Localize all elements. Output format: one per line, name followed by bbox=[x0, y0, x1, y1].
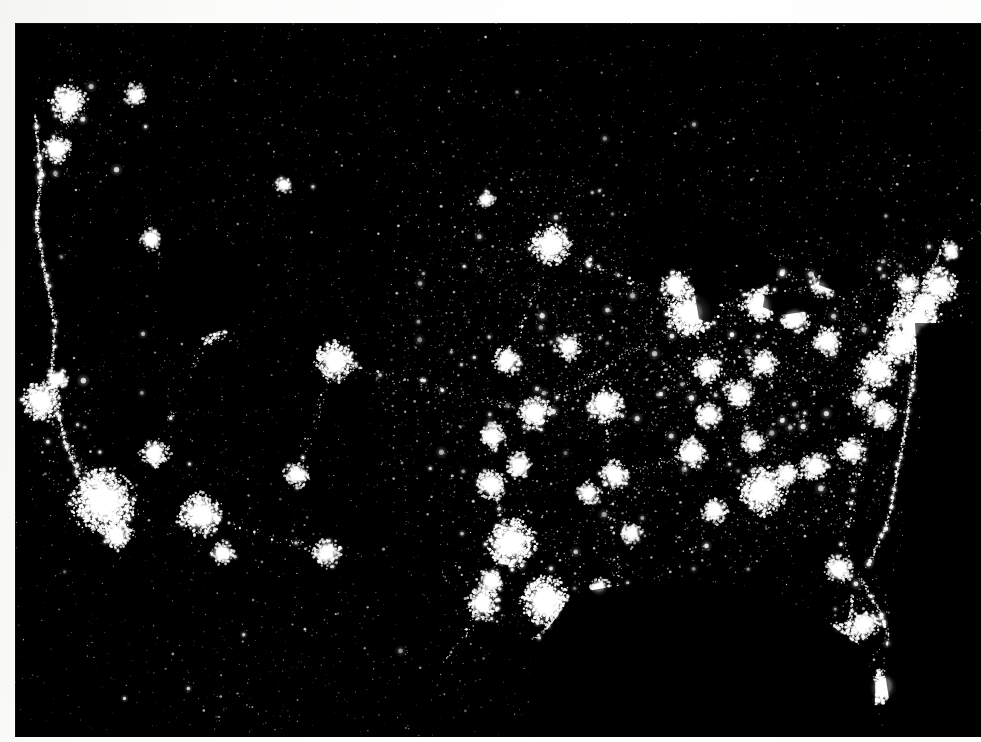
satellite-image-plate bbox=[15, 23, 981, 737]
night-lights-canvas bbox=[15, 23, 981, 737]
night-lights-figure: Nighttime city lights of the contiguous … bbox=[0, 0, 981, 742]
